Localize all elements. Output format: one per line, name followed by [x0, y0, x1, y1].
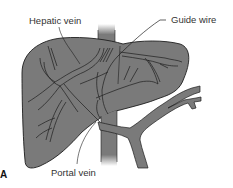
guide-wire-label: Guide wire: [171, 15, 216, 25]
panel-letter: A: [0, 170, 7, 180]
ivc-lower: [101, 110, 117, 166]
portal-vein-label: Portal vein: [51, 168, 96, 178]
liver-diagram: [0, 0, 233, 188]
hepatic-vein-label: Hepatic vein: [29, 16, 81, 26]
